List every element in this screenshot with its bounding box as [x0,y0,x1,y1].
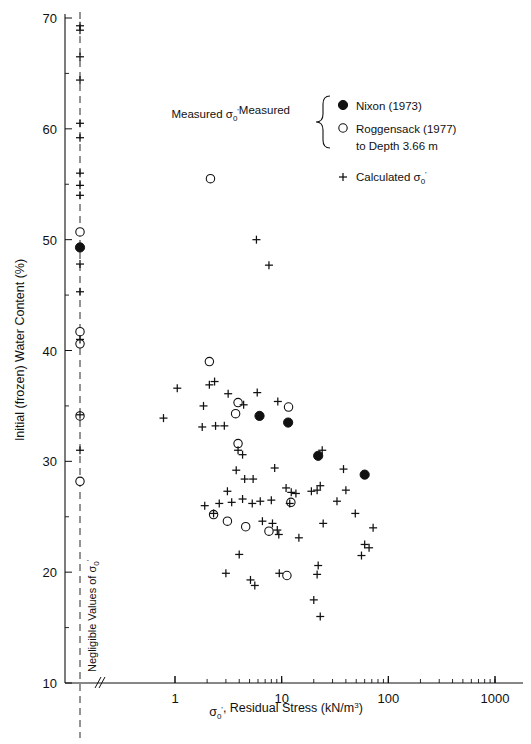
data-point-nixon [284,418,293,427]
data-point-calculated [235,550,243,558]
data-point-calculated-negligible [76,26,84,34]
data-point-calculated [275,569,283,577]
data-point-calculated [258,517,266,525]
legend-marker-open-circle [339,124,347,132]
data-point-calculated [251,581,259,589]
data-point-calculated [220,422,228,430]
data-point-calculated [222,569,230,577]
data-point-roggensack [287,498,295,506]
y-tick-label: 20 [43,565,57,580]
data-point-calculated [232,466,240,474]
data-point-roggensack [223,517,231,525]
data-point-calculated [313,570,321,578]
y-tick-label: 70 [43,11,57,26]
data-point-calculated [287,488,295,496]
data-point-roggensack-negligible [76,228,84,236]
data-point-calculated [252,236,260,244]
data-point-calculated-negligible [76,191,84,199]
data-point-calculated [234,446,242,454]
data-point-roggensack [234,398,242,406]
data-point-calculated [369,524,377,532]
data-point-calculated [239,451,247,459]
data-point-calculated [271,464,279,472]
y-tick-label: 50 [43,233,57,248]
data-point-calculated [274,397,282,405]
data-point-calculated [310,596,318,604]
data-point-calculated [316,613,324,621]
data-point-calculated-negligible [76,76,84,84]
data-point-calculated-negligible [76,288,84,296]
data-point-calculated [249,475,257,483]
data-point-calculated [253,389,261,397]
data-point-calculated [241,475,249,483]
data-point-nixon [360,470,369,479]
x-axis-title: σ0', Residual Stress (kN/m3) [209,701,363,721]
x-tick-label: 100 [377,691,399,706]
data-point-roggensack [283,571,291,579]
data-point-calculated [351,509,359,517]
legend-label-depth: to Depth 3.66 m [356,140,438,152]
data-point-calculated [256,497,264,505]
data-point-calculated [199,402,207,410]
data-point-calculated [275,530,283,538]
data-point-calculated [292,489,300,497]
legend-label-roggensack: Roggensack (1977) [356,123,457,135]
data-point-calculated-negligible [76,260,84,268]
data-point-roggensack [231,409,239,417]
data-point-calculated [201,502,209,510]
data-point-calculated [282,484,290,492]
data-point-calculated [224,390,232,398]
y-tick-label: 40 [43,344,57,359]
y-axis-title: Initial (frozen) Water Content (%) [13,259,27,441]
data-point-calculated [295,534,303,542]
data-point-roggensack [206,175,214,183]
figure-scatter-plot: 102030405060701101001000Negligible Value… [0,0,531,744]
data-point-calculated [342,486,350,494]
data-point-calculated [223,487,231,495]
data-point-roggensack [205,357,213,365]
data-point-calculated [268,519,276,527]
x-tick-label: 1000 [481,691,510,706]
y-tick-label: 30 [43,454,57,469]
data-point-calculated-negligible [76,181,84,189]
data-point-calculated [159,414,167,422]
data-point-calculated [265,261,273,269]
data-point-calculated [215,499,223,507]
data-point-calculated [314,562,322,570]
data-point-calculated [267,496,275,504]
data-point-nixon [314,451,323,460]
x-tick-label: 1 [171,691,178,706]
data-point-calculated-negligible [76,446,84,454]
data-point-calculated [173,384,181,392]
data-point-calculated-negligible [76,53,84,61]
data-point-calculated [248,499,256,507]
data-point-calculated [228,498,236,506]
data-point-calculated [340,465,348,473]
data-point-nixon-negligible [75,243,84,252]
data-point-roggensack [284,403,292,411]
data-point-calculated-negligible [76,169,84,177]
data-point-calculated [273,526,281,534]
legend-label-calculated: Calculated σ0' [356,170,427,186]
data-point-calculated [246,576,254,584]
negligible-values-axis-label: Negligible Values of σ0' [85,559,101,672]
data-point-calculated [357,552,365,560]
data-point-calculated [212,422,220,430]
legend-brace [316,96,330,148]
data-point-calculated [239,495,247,503]
data-point-calculated [333,497,341,505]
data-point-calculated [319,519,327,527]
legend-marker-filled-circle [338,100,347,109]
y-tick-label: 60 [43,122,57,137]
data-point-nixon [255,411,264,420]
data-point-calculated-negligible [76,119,84,127]
data-point-roggensack [265,527,273,535]
data-point-calculated [198,423,206,431]
y-tick-label: 10 [43,676,57,691]
data-point-calculated [307,487,315,495]
legend-marker-plus [339,173,347,181]
data-point-roggensack [241,523,249,531]
data-point-calculated-negligible [76,134,84,142]
data-point-roggensack-negligible [76,477,84,485]
legend-group-label-sigma: Measured σ0'Measured [171,104,290,123]
